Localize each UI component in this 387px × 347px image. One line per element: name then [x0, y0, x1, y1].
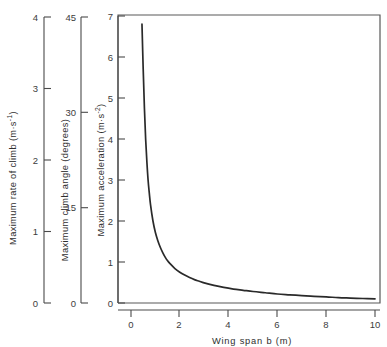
axis3-title-main: Maximum acceleration (m·s	[96, 114, 106, 237]
axis1-ticklabel-1: 1	[33, 226, 38, 237]
axis1-title-main: Maximum rate of climb (m·s	[8, 121, 18, 245]
axis3-ticklabel-4: 4	[108, 134, 113, 145]
axis3-ticklabel-5: 5	[108, 93, 113, 104]
axis2-ticklabel-45: 45	[65, 12, 76, 23]
data-series-group	[142, 24, 375, 299]
axis2-title: Maximum climb angle (degrees)	[60, 119, 70, 261]
axis1-ticklabel-4: 4	[33, 12, 38, 23]
axis-wing-span: 0 2 4 6 8 10 Wing span b (m)	[118, 310, 380, 346]
axis1-ticklabel-2: 2	[33, 155, 38, 166]
axis-acceleration: 0 1 2 3 4 5 6 7 Maximum acceleration (m·…	[94, 11, 380, 309]
xaxis-title: Wing span b (m)	[212, 336, 292, 346]
axis3-ticklabel-7: 7	[108, 11, 113, 22]
axis2-ticklabel-0: 0	[71, 298, 76, 309]
axis3-ticklabel-1: 1	[108, 257, 113, 268]
axis1-title-exponent: -1	[6, 115, 13, 122]
axis-rate-of-climb: 0 1 2 3 4 Maximum rate of climb (m·s-1)	[6, 12, 51, 309]
axis3-ticklabel-0: 0	[108, 298, 113, 309]
data-curve-acceleration	[142, 24, 375, 299]
axis3-title: Maximum acceleration (m·s-2)	[94, 104, 106, 237]
axis3-ticklabel-2: 2	[108, 216, 113, 227]
axis3-ticklabel-6: 6	[108, 52, 113, 63]
axis3-ticklabel-3: 3	[108, 175, 113, 186]
axis1-title-close: )	[8, 111, 18, 114]
xaxis-ticklabel-4: 4	[225, 319, 230, 330]
chart-svg: 0 1 2 3 4 Maximum rate of climb (m·s-1) …	[0, 0, 387, 347]
xaxis-ticklabel-2: 2	[176, 319, 181, 330]
axis-climb-angle: 0 15 30 45 Maximum climb angle (degrees)	[60, 12, 88, 309]
xaxis-ticklabel-8: 8	[323, 319, 328, 330]
axis1-title: Maximum rate of climb (m·s-1)	[6, 111, 18, 245]
axis1-ticklabel-3: 3	[33, 83, 38, 94]
plot-frame	[118, 15, 380, 303]
xaxis-ticklabel-6: 6	[274, 319, 279, 330]
xaxis-ticklabel-0: 0	[128, 319, 133, 330]
axis2-ticklabel-30: 30	[65, 107, 76, 118]
xaxis-ticklabel-10: 10	[370, 319, 381, 330]
axis3-title-close: )	[96, 104, 106, 107]
axis1-ticklabel-0: 0	[33, 298, 38, 309]
figure-container: 0 1 2 3 4 Maximum rate of climb (m·s-1) …	[0, 0, 387, 347]
